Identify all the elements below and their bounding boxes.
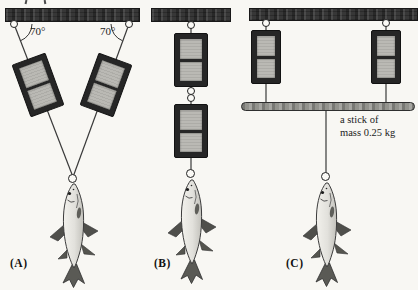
scale-window bbox=[87, 82, 117, 109]
ceiling-ring-a-right bbox=[125, 20, 133, 28]
spring-scale-b-lower bbox=[174, 104, 208, 158]
figure-canvas: 70° 70° a stick of mass 0.25 kg (A) (B) … bbox=[0, 0, 418, 290]
fish-b bbox=[164, 178, 220, 286]
scale-window bbox=[377, 36, 395, 56]
ceiling-ring-c-right bbox=[382, 19, 390, 27]
angle-label-left: 70° bbox=[30, 25, 45, 37]
fish-a bbox=[46, 182, 102, 290]
scale-window bbox=[180, 133, 202, 153]
ceiling-bar-a bbox=[5, 8, 140, 22]
scale-window bbox=[180, 62, 202, 82]
chain-link-ring-2 bbox=[187, 94, 195, 102]
ceiling-ring-c-left bbox=[262, 19, 270, 27]
scale-window bbox=[257, 59, 275, 79]
stick-caption-line2: mass 0.25 kg bbox=[340, 126, 395, 139]
scale-window bbox=[257, 36, 275, 56]
ceiling-ring-b bbox=[187, 21, 195, 29]
stick bbox=[241, 102, 415, 111]
ceiling-bar-b bbox=[151, 8, 231, 22]
fish-ring-c bbox=[321, 172, 330, 181]
angle-label-right: 70° bbox=[100, 25, 115, 37]
stick-caption-line1: a stick of bbox=[340, 113, 395, 126]
fish-ring-b bbox=[186, 169, 195, 178]
spring-scale-b-upper bbox=[174, 33, 208, 87]
panel-label-c: (C) bbox=[286, 257, 303, 269]
cropped-print-artifact bbox=[44, 0, 47, 4]
stick-mass-caption: a stick of mass 0.25 kg bbox=[340, 113, 395, 139]
scale-window bbox=[27, 82, 57, 109]
scale-window bbox=[180, 110, 202, 130]
ceiling-bar-c bbox=[249, 8, 418, 21]
spring-scale-c-right bbox=[371, 30, 401, 84]
spring-scale-c-left bbox=[251, 30, 281, 84]
scale-window bbox=[180, 39, 202, 59]
panel-label-a: (A) bbox=[10, 257, 27, 269]
fish-c bbox=[299, 181, 355, 289]
scale-window bbox=[377, 59, 395, 79]
ceiling-ring-a-left bbox=[10, 20, 18, 28]
panel-label-b: (B) bbox=[154, 257, 171, 269]
